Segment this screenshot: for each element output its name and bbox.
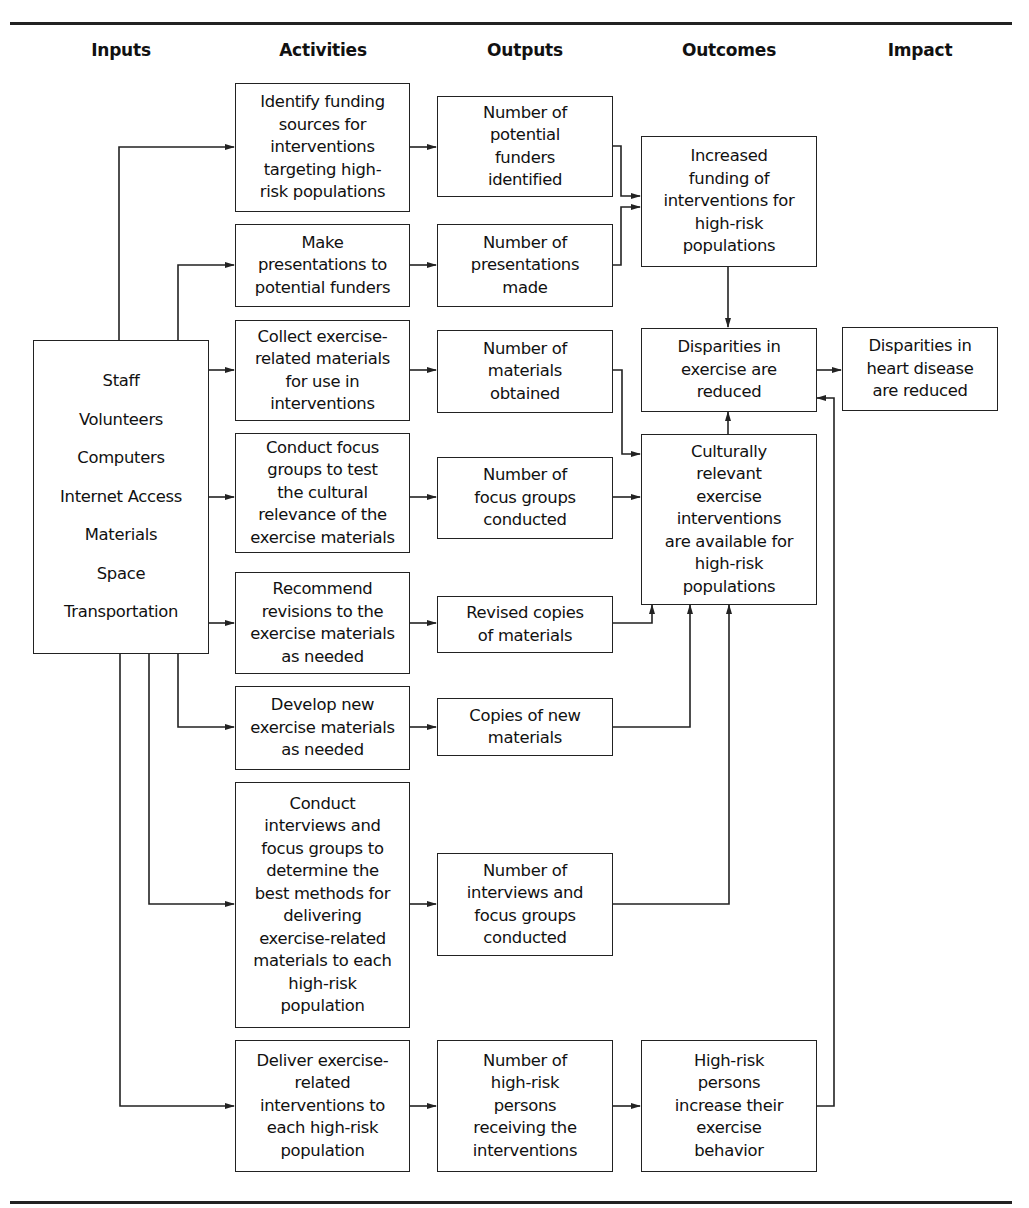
output-text: Revised copies of materials — [466, 602, 584, 647]
inputs-list: Staff Volunteers Computers Internet Acce… — [60, 362, 182, 632]
outcome-box-exercise-disparities: Disparities in exercise are reduced — [641, 328, 817, 412]
outcome-text: High-risk persons increase their exercis… — [675, 1050, 783, 1163]
output-box-new-materials: Copies of new materials — [437, 698, 613, 756]
top-rule — [10, 22, 1012, 25]
activity-box-conduct-interviews: Conduct interviews and focus groups to d… — [235, 782, 410, 1028]
output-text: Number of high-risk persons receiving th… — [473, 1050, 577, 1163]
outcome-text: Culturally relevant exercise interventio… — [665, 441, 793, 599]
activity-box-develop-materials: Develop new exercise materials as needed — [235, 686, 410, 770]
input-item: Staff — [103, 362, 140, 401]
activity-box-collect-materials: Collect exercise- related materials for … — [235, 320, 410, 421]
output-text: Copies of new materials — [469, 705, 580, 750]
output-box-focus-groups: Number of focus groups conducted — [437, 457, 613, 539]
activity-text: Conduct interviews and focus groups to d… — [253, 793, 391, 1018]
activity-text: Identify funding sources for interventio… — [260, 91, 386, 204]
output-text: Number of potential funders identified — [483, 102, 567, 192]
activity-box-deliver-interventions: Deliver exercise- related interventions … — [235, 1040, 410, 1172]
header-outcomes: Outcomes — [641, 40, 817, 60]
output-box-persons-receiving: Number of high-risk persons receiving th… — [437, 1040, 613, 1172]
input-item: Computers — [77, 439, 164, 478]
input-item: Internet Access — [60, 478, 182, 517]
activity-box-conduct-focus-groups: Conduct focus groups to test the cultura… — [235, 433, 410, 553]
activity-text: Deliver exercise- related interventions … — [256, 1050, 388, 1163]
header-activities: Activities — [235, 40, 411, 60]
outcome-text: Increased funding of interventions for h… — [664, 145, 795, 258]
activity-box-recommend-revisions: Recommend revisions to the exercise mate… — [235, 572, 410, 674]
output-box-potential-funders: Number of potential funders identified — [437, 96, 613, 197]
output-text: Number of focus groups conducted — [474, 464, 576, 532]
impact-text: Disparities in heart disease are reduced — [866, 335, 973, 403]
header-impact: Impact — [832, 40, 1008, 60]
activity-box-make-presentations: Make presentations to potential funders — [235, 224, 410, 307]
input-item: Volunteers — [79, 401, 163, 440]
activity-text: Collect exercise- related materials for … — [255, 326, 390, 416]
outcome-box-culturally-relevant: Culturally relevant exercise interventio… — [641, 434, 817, 605]
activity-text: Develop new exercise materials as needed — [250, 694, 394, 762]
activity-text: Conduct focus groups to test the cultura… — [250, 437, 394, 550]
header-inputs: Inputs — [33, 40, 209, 60]
input-item: Materials — [85, 516, 157, 555]
activity-text: Recommend revisions to the exercise mate… — [250, 578, 394, 668]
outcome-text: Disparities in exercise are reduced — [677, 336, 780, 404]
impact-box-heart-disease: Disparities in heart disease are reduced — [842, 327, 998, 411]
input-item: Space — [97, 555, 145, 594]
activity-text: Make presentations to potential funders — [255, 232, 390, 300]
inputs-box: Staff Volunteers Computers Internet Acce… — [33, 340, 209, 654]
outcome-box-increase-exercise: High-risk persons increase their exercis… — [641, 1040, 817, 1172]
output-box-interviews: Number of interviews and focus groups co… — [437, 853, 613, 956]
output-text: Number of materials obtained — [483, 338, 567, 406]
header-outputs: Outputs — [437, 40, 613, 60]
outcome-box-increased-funding: Increased funding of interventions for h… — [641, 136, 817, 267]
output-text: Number of presentations made — [471, 232, 579, 300]
output-text: Number of interviews and focus groups co… — [467, 860, 583, 950]
bottom-rule — [10, 1201, 1012, 1204]
activity-box-identify-funding: Identify funding sources for interventio… — [235, 83, 410, 212]
output-box-revised-copies: Revised copies of materials — [437, 596, 613, 653]
input-item: Transportation — [64, 593, 178, 632]
output-box-presentations: Number of presentations made — [437, 224, 613, 307]
output-box-materials-obtained: Number of materials obtained — [437, 330, 613, 413]
